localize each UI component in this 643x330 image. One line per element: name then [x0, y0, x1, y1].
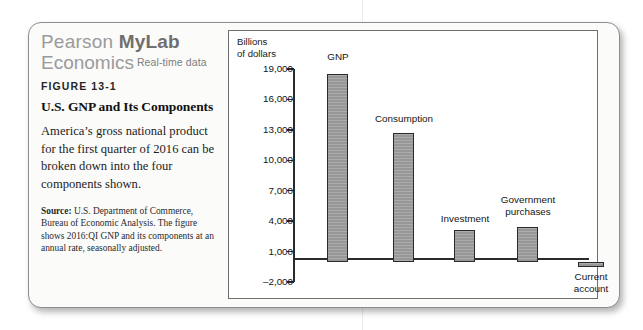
bar-gnp: [327, 74, 348, 262]
bar-investment: [454, 230, 475, 261]
y-axis-tick-label: 4,000: [268, 215, 293, 226]
figure-title: U.S. GNP and Its Components: [41, 99, 229, 115]
brand-line-two: EconomicsReal-time data: [41, 52, 229, 73]
y-axis-tick-label: 7,000: [268, 185, 293, 196]
figure-description: America’s gross national product for the…: [41, 123, 219, 193]
figure-number: FIGURE 13-1: [41, 80, 229, 92]
brand-pearson: Pearson: [41, 31, 119, 52]
source-label: Source:: [41, 206, 72, 216]
chart-container: Billions of dollars 19,00016,00013,00010…: [228, 30, 598, 299]
figure-text-column: Pearson MyLab EconomicsReal-time data FI…: [41, 31, 229, 299]
bar-label-gnp: GNP: [308, 51, 368, 63]
bar-label-consumption: Consumption: [354, 113, 454, 125]
y-axis-tick-label: 19,000: [263, 63, 293, 74]
bar-label-current-account: Current account: [558, 271, 624, 294]
figure-panel: Pearson MyLab EconomicsReal-time data FI…: [28, 22, 620, 308]
brand-line-one: Pearson MyLab: [41, 31, 229, 52]
bar-current-account: [578, 262, 604, 267]
y-axis-tick-label: –2,000: [263, 276, 293, 287]
y-axis-tick-label: 13,000: [263, 124, 293, 135]
y-axis-tick-label: 16,000: [263, 93, 293, 104]
bar-government-purchases: [517, 227, 538, 262]
brand-economics: Economics: [41, 52, 134, 73]
y-axis-tick-label: 10,000: [263, 154, 293, 165]
figure-source-note: Source: U.S. Department of Commerce, Bur…: [41, 205, 217, 255]
bar-consumption: [393, 133, 414, 262]
brand-mylab: MyLab: [119, 31, 180, 52]
y-axis-tick-label: 1,000: [268, 246, 293, 257]
chart-plot-area: 19,00016,00013,00010,0007,0004,0001,000–…: [229, 31, 599, 300]
bar-label-government-purchases: Government purchases: [481, 194, 575, 217]
brand-realtime-tag: Real-time data: [134, 56, 207, 68]
